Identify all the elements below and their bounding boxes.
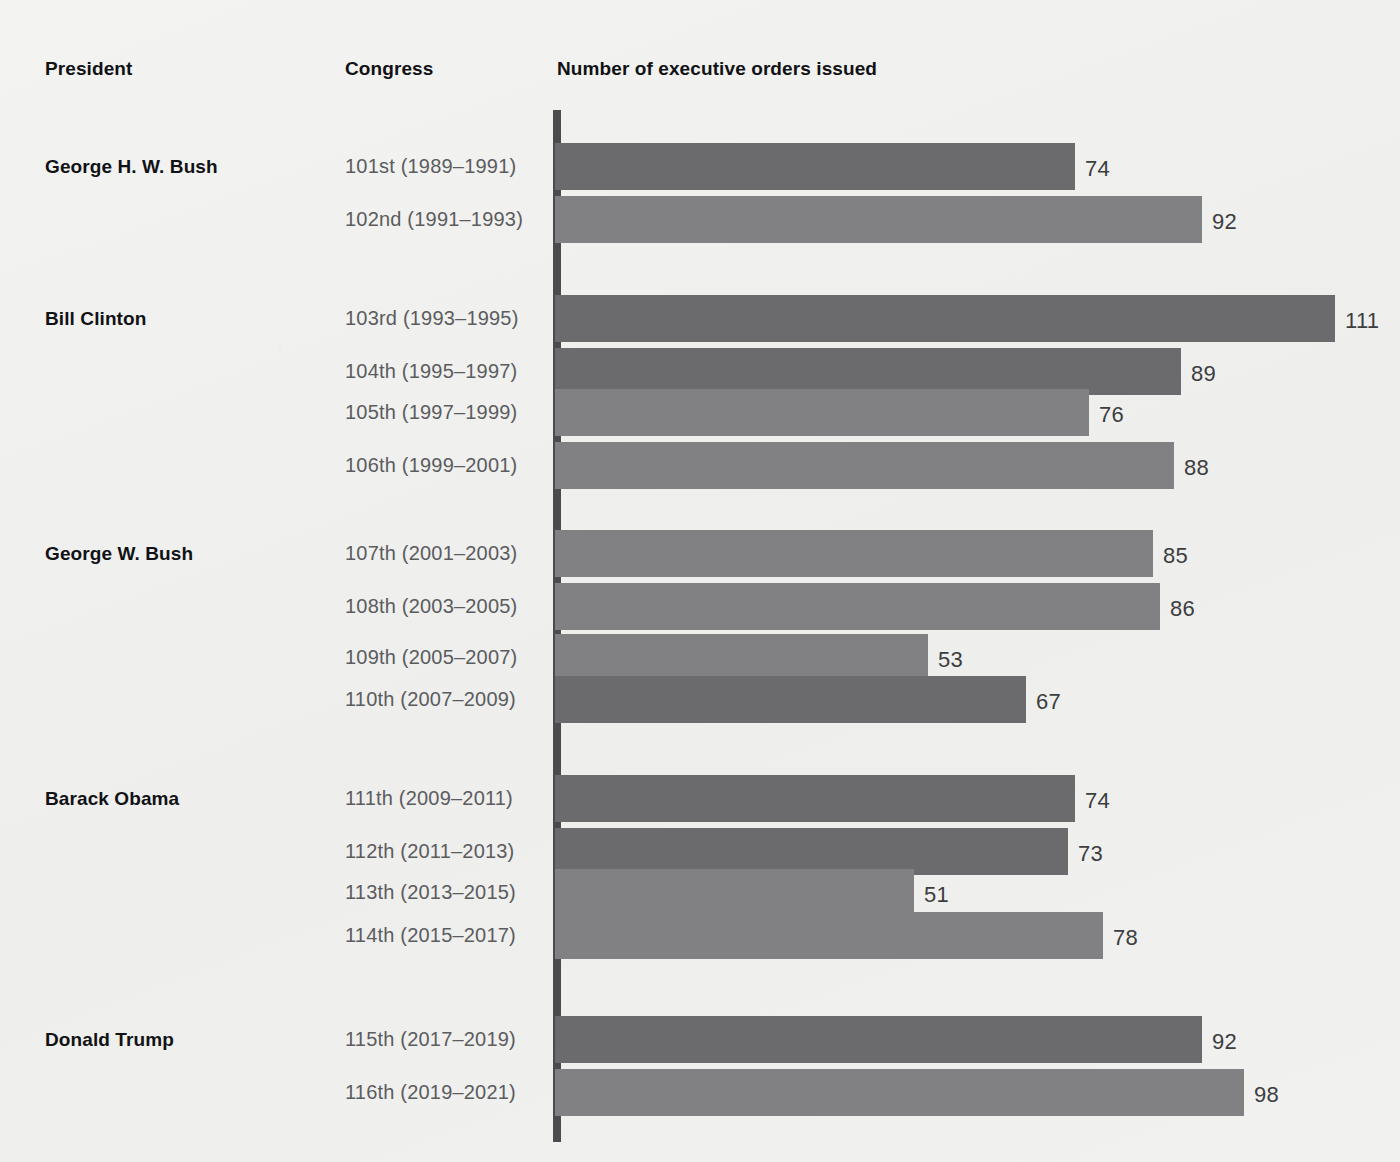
bar xyxy=(555,676,1026,723)
president-label: George H. W. Bush xyxy=(45,156,218,178)
congress-label: 116th (2019–2021) xyxy=(345,1081,516,1104)
congress-label: 104th (1995–1997) xyxy=(345,360,517,383)
president-label: Barack Obama xyxy=(45,788,179,810)
bar-value-label: 98 xyxy=(1254,1082,1279,1108)
congress-label: 107th (2001–2003) xyxy=(345,542,517,565)
bar-value-label: 92 xyxy=(1212,1029,1237,1055)
bar-value-label: 74 xyxy=(1085,156,1110,182)
bar xyxy=(555,530,1153,577)
bar xyxy=(555,295,1335,342)
congress-label: 108th (2003–2005) xyxy=(345,595,517,618)
bar xyxy=(555,442,1174,489)
column-header-president: President xyxy=(45,58,133,80)
congress-label: 102nd (1991–1993) xyxy=(345,208,523,231)
congress-label: 110th (2007–2009) xyxy=(345,688,516,711)
bar-value-label: 111 xyxy=(1345,308,1379,334)
bar xyxy=(555,828,1068,875)
column-header-congress: Congress xyxy=(345,58,433,80)
bar xyxy=(555,583,1160,630)
bar xyxy=(555,1016,1202,1063)
bar xyxy=(555,196,1202,243)
bar-value-label: 88 xyxy=(1184,455,1209,481)
bar-value-label: 53 xyxy=(938,647,963,673)
bar-value-label: 85 xyxy=(1163,543,1188,569)
bar xyxy=(555,775,1075,822)
bar xyxy=(555,389,1089,436)
bar-value-label: 92 xyxy=(1212,209,1237,235)
bar-value-label: 89 xyxy=(1191,361,1216,387)
congress-label: 109th (2005–2007) xyxy=(345,646,517,669)
congress-label: 101st (1989–1991) xyxy=(345,155,516,178)
congress-label: 114th (2015–2017) xyxy=(345,924,516,947)
bar xyxy=(555,348,1181,395)
chart-page: President Congress Number of executive o… xyxy=(0,0,1400,1162)
congress-label: 106th (1999–2001) xyxy=(345,454,517,477)
column-header-values: Number of executive orders issued xyxy=(557,58,877,80)
president-label: Donald Trump xyxy=(45,1029,174,1051)
president-label: Bill Clinton xyxy=(45,308,146,330)
bar-value-label: 76 xyxy=(1099,402,1124,428)
bar xyxy=(555,912,1103,959)
bar-value-label: 86 xyxy=(1170,596,1195,622)
congress-label: 103rd (1993–1995) xyxy=(345,307,519,330)
congress-label: 112th (2011–2013) xyxy=(345,840,514,863)
congress-label: 115th (2017–2019) xyxy=(345,1028,516,1051)
president-label: George W. Bush xyxy=(45,543,193,565)
bar-value-label: 51 xyxy=(924,882,949,908)
congress-label: 111th (2009–2011) xyxy=(345,787,513,810)
bar xyxy=(555,143,1075,190)
bar-value-label: 67 xyxy=(1036,689,1061,715)
congress-label: 113th (2013–2015) xyxy=(345,881,516,904)
bar xyxy=(555,634,928,681)
bar-value-label: 78 xyxy=(1113,925,1138,951)
congress-label: 105th (1997–1999) xyxy=(345,401,517,424)
bar-value-label: 74 xyxy=(1085,788,1110,814)
bar-value-label: 73 xyxy=(1078,841,1103,867)
bar xyxy=(555,1069,1244,1116)
bar xyxy=(555,869,914,916)
